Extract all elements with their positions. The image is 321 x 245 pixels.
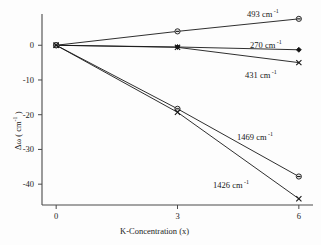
y-axis-title-sup: -1 <box>12 116 18 121</box>
x-tick-label: 0 <box>44 211 68 221</box>
series-annotation: 493 cm -1 <box>247 8 279 19</box>
series-annotation-sup: -1 <box>267 131 274 137</box>
series-annotation-sup: -1 <box>270 69 277 75</box>
series-annotation: 1426 cm -1 <box>213 179 249 190</box>
y-axis-title-tail: ) <box>13 112 23 117</box>
plot-canvas <box>0 0 321 245</box>
y-axis-title: Δω ( cm-1 ) <box>12 112 23 151</box>
data-point-marker <box>296 47 301 52</box>
y-tick-label: 0 <box>0 40 34 50</box>
series-annotation-sup: -1 <box>272 8 279 14</box>
series-annotation: 1469 cm -1 <box>237 131 273 142</box>
data-point-marker <box>296 196 301 201</box>
chart-figure: 0-10-20-30-40 036 K-Concentration (x) Δω… <box>0 0 321 245</box>
series-annotation-text: 1426 cm <box>213 180 243 190</box>
series-annotation: 270 cm -1 <box>250 39 282 50</box>
series-annotation: 431 cm -1 <box>245 69 277 80</box>
series-annotation-sup: -1 <box>243 179 250 185</box>
series-annotation-text: 1469 cm <box>237 132 267 142</box>
y-tick-label: -40 <box>0 179 34 189</box>
x-tick-marks <box>56 205 299 209</box>
x-axis-title: K-Concentration (x) <box>120 226 189 236</box>
y-axis-title-text: Δω ( cm <box>13 121 23 150</box>
x-tick-label: 3 <box>166 211 190 221</box>
x-tick-label: 6 <box>287 211 311 221</box>
y-tick-label: -10 <box>0 75 34 85</box>
series-annotation-text: 493 cm <box>247 9 272 19</box>
series-annotation-text: 270 cm <box>250 40 275 50</box>
y-tick-marks <box>38 45 42 184</box>
series-annotation-text: 431 cm <box>245 70 270 80</box>
series-annotation-sup: -1 <box>275 39 282 45</box>
